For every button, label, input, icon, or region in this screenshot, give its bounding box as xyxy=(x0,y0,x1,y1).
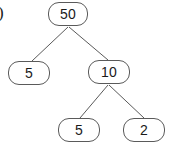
tree-edge-root-to-right xyxy=(69,27,108,60)
tree-node-left: 5 xyxy=(8,61,50,85)
tree-node-right-right: 2 xyxy=(123,118,165,142)
tree-node-value: 5 xyxy=(75,123,83,137)
tree-node-right-left: 5 xyxy=(58,118,100,142)
tree-edge-right-to-right-right xyxy=(109,85,144,118)
tree-node-value: 10 xyxy=(101,65,117,79)
tree-edge-root-to-left xyxy=(32,27,68,61)
tree-node-value: 5 xyxy=(25,66,33,80)
binary-tree-diagram: ) 5051052 xyxy=(0,0,170,148)
tree-node-value: 50 xyxy=(60,7,76,21)
tree-node-right: 10 xyxy=(88,60,130,84)
tree-edge-right-to-right-left xyxy=(80,85,108,118)
tree-node-root: 50 xyxy=(48,2,88,26)
tree-node-value: 2 xyxy=(140,123,148,137)
